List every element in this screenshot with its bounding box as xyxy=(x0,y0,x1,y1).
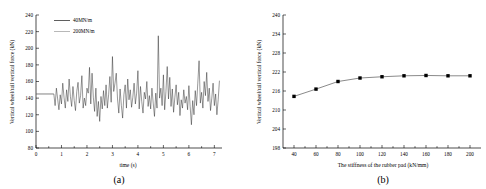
x-tick-label: 180 xyxy=(444,151,452,157)
y-tick-label: 220 xyxy=(25,29,33,35)
legend-label-200mn: 200MN/m xyxy=(73,28,95,34)
panel-b-y-ticks: 198204210216222228234240 xyxy=(272,12,286,151)
data-point-marker xyxy=(336,80,339,83)
panel-a-x-axis-label: time (s) xyxy=(119,162,136,169)
data-point-marker xyxy=(358,76,361,79)
x-tick-label: 3 xyxy=(111,151,114,157)
y-tick-label: 210 xyxy=(272,107,280,113)
x-tick-label: 2 xyxy=(86,151,89,157)
panel-b-plot: 198204210216222228234240 406080100120140… xyxy=(243,0,486,189)
x-tick-label: 6 xyxy=(188,151,191,157)
x-tick-label: 120 xyxy=(378,151,386,157)
y-tick-label: 216 xyxy=(272,88,280,94)
data-point-marker xyxy=(402,74,405,77)
y-tick-label: 204 xyxy=(272,126,280,132)
x-tick-label: 200 xyxy=(466,151,474,157)
x-tick-label: 40 xyxy=(291,151,297,157)
panel-b-axes xyxy=(283,15,481,148)
panel-b-caption: (b) xyxy=(377,174,389,186)
x-tick-label: 7 xyxy=(213,151,216,157)
panel-a-plot: 80100120140160180200220240 01234567 40MN… xyxy=(0,0,243,189)
panel-b-x-ticks: 406080100120140160180200 xyxy=(291,145,474,157)
x-tick-label: 1 xyxy=(60,151,63,157)
y-tick-label: 120 xyxy=(25,112,33,118)
panel-a: 80100120140160180200220240 01234567 40MN… xyxy=(0,0,243,189)
y-tick-label: 160 xyxy=(25,78,33,84)
panel-a-legend: 40MN/m 200MN/m xyxy=(54,17,95,34)
panel-b-x-axis-label: The stiffness of the rubber pad (kN/mm) xyxy=(338,162,429,169)
data-point-marker xyxy=(292,95,295,98)
data-point-marker xyxy=(380,75,383,78)
y-tick-label: 222 xyxy=(272,69,280,75)
panel-b-series-group xyxy=(292,74,471,98)
panel-b-y-axis-label: Vertical wheel/rail vertical force (kN) xyxy=(256,40,263,124)
y-tick-label: 80 xyxy=(28,145,34,151)
y-tick-label: 100 xyxy=(25,128,33,134)
y-tick-label: 234 xyxy=(272,31,280,37)
x-tick-label: 0 xyxy=(35,151,38,157)
x-tick-label: 80 xyxy=(335,151,341,157)
y-tick-label: 198 xyxy=(272,145,280,151)
series-line xyxy=(36,36,219,125)
x-tick-label: 4 xyxy=(137,151,140,157)
figure-two-panel: 80100120140160180200220240 01234567 40MN… xyxy=(0,0,486,189)
data-point-marker xyxy=(468,74,471,77)
y-tick-label: 240 xyxy=(25,12,33,18)
x-tick-label: 160 xyxy=(422,151,430,157)
panel-a-caption: (a) xyxy=(113,174,124,186)
legend-label-40mn: 40MN/m xyxy=(73,17,92,23)
panel-b: 198204210216222228234240 406080100120140… xyxy=(243,0,486,189)
x-tick-label: 140 xyxy=(400,151,408,157)
data-point-marker xyxy=(446,74,449,77)
panel-a-axes xyxy=(36,15,222,148)
series-line xyxy=(294,75,470,96)
panel-a-y-axis-label: Vertical wheel/rail vertical force (kN) xyxy=(9,40,16,124)
y-tick-label: 200 xyxy=(25,45,33,51)
y-tick-label: 140 xyxy=(25,95,33,101)
panel-a-x-ticks: 01234567 xyxy=(35,145,216,157)
x-tick-label: 5 xyxy=(162,151,165,157)
panel-a-y-ticks: 80100120140160180200220240 xyxy=(25,12,39,151)
panel-a-series-group xyxy=(36,36,219,125)
y-tick-label: 180 xyxy=(25,62,33,68)
data-point-marker xyxy=(314,87,317,90)
y-tick-label: 228 xyxy=(272,50,280,56)
y-tick-label: 240 xyxy=(272,12,280,18)
x-tick-label: 60 xyxy=(313,151,319,157)
data-point-marker xyxy=(424,74,427,77)
x-tick-label: 100 xyxy=(356,151,364,157)
